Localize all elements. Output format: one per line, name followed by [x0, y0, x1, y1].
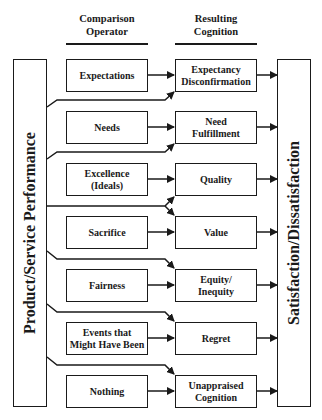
cognition-box-equity: Equity/Inequity [175, 269, 257, 302]
operator-box-excellence: Excellence(Ideals) [66, 163, 148, 196]
product-service-performance-box: Product/Service Performance [13, 59, 47, 407]
side-label: Satisfaction/Dissatisfaction [288, 141, 300, 325]
operator-box-fairness: Fairness [66, 269, 148, 302]
connector-lines [0, 0, 322, 420]
satisfaction-dissatisfaction-box: Satisfaction/Dissatisfaction [277, 59, 311, 407]
cognition-box-value: Value [175, 216, 257, 249]
operator-box-sacrifice: Sacrifice [66, 216, 148, 249]
operator-box-needs: Needs [66, 111, 148, 144]
cognition-box-regret: Regret [175, 322, 257, 355]
operator-box-events: Events thatMight Have Been [66, 322, 148, 355]
operator-box-expectations: Expectations [66, 59, 148, 92]
cognition-box-expectancy-disconfirmation: ExpectancyDisconfirmation [175, 59, 257, 92]
cognition-box-quality: Quality [175, 163, 257, 196]
cognition-box-unappraised: UnappraisedCognition [175, 375, 257, 408]
operator-box-nothing: Nothing [66, 375, 148, 408]
cognition-box-need-fulfillment: NeedFulfillment [175, 111, 257, 144]
side-label: Product/Service Performance [24, 132, 36, 334]
